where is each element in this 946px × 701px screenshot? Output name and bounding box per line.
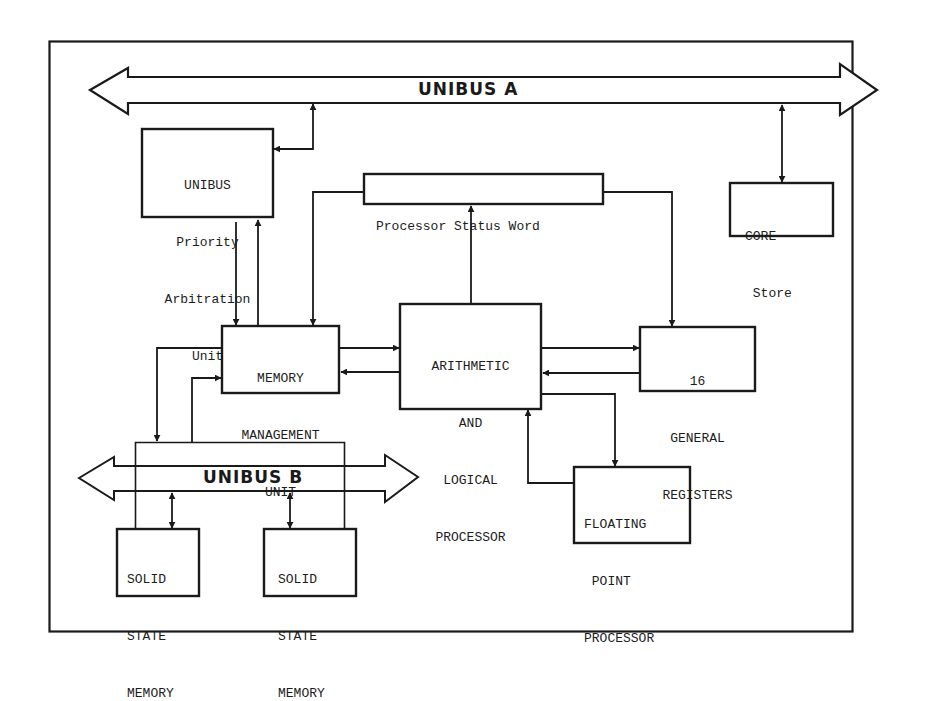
psw-to-registers-link xyxy=(603,192,672,326)
mmu-to-unibus-b-link xyxy=(157,348,222,441)
label-line: MEMORY xyxy=(127,684,174,701)
processor-status-word-box[interactable] xyxy=(364,174,603,204)
solid-state-memory-2-box[interactable] xyxy=(264,529,356,596)
unibus-b-to-mmu-link xyxy=(192,378,221,442)
unibus-a-label: UNIBUS A xyxy=(418,79,518,99)
alu-to-fpp-link xyxy=(542,394,615,466)
label-line: MEMORY xyxy=(278,684,325,701)
memory-management-box[interactable] xyxy=(222,326,339,393)
priority-arbitration-box[interactable] xyxy=(142,129,273,217)
floating-point-box[interactable] xyxy=(574,467,690,543)
alu-box[interactable] xyxy=(400,304,541,409)
fpp-to-alu-link xyxy=(528,410,574,483)
arbitration-unibus-a-link xyxy=(274,104,313,149)
unibus-b-label: UNIBUS B xyxy=(203,467,303,487)
core-store-box[interactable] xyxy=(730,183,833,236)
solid-state-memory-1-box[interactable] xyxy=(117,529,199,596)
general-registers-box[interactable] xyxy=(640,327,755,391)
psw-to-mmu-link xyxy=(313,192,364,325)
